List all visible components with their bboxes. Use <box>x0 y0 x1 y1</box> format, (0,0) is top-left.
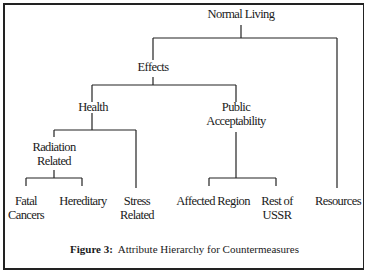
node-radiation-related: Radiation Related <box>32 140 75 168</box>
caption-label: Figure 3: <box>70 243 113 255</box>
node-public-acceptability: Public Acceptability <box>206 100 266 128</box>
node-label-line2: USSR <box>261 208 293 222</box>
node-label: Resources <box>315 194 361 208</box>
node-label: Health <box>78 100 108 114</box>
node-stress-related: Stress Related <box>120 194 154 222</box>
node-effects: Effects <box>138 60 169 74</box>
node-affected-region: Affected Region <box>176 194 250 208</box>
node-hereditary: Hereditary <box>59 194 106 208</box>
node-label-line1: Public <box>206 100 266 114</box>
hierarchy-connectors <box>0 0 369 274</box>
node-label: Affected Region <box>176 194 250 208</box>
node-label-line2: Related <box>120 208 154 222</box>
node-normal-living: Normal Living <box>208 7 275 21</box>
node-label-line1: Fatal <box>8 194 44 208</box>
node-rest-of-ussr: Rest of USSR <box>261 194 293 222</box>
node-health: Health <box>78 100 108 114</box>
figure-caption: Figure 3: Attribute Hierarchy for Counte… <box>0 243 369 255</box>
node-fatal-cancers: Fatal Cancers <box>8 194 44 222</box>
node-label-line1: Rest of <box>261 194 293 208</box>
node-label-line2: Acceptability <box>206 114 266 128</box>
node-label: Normal Living <box>208 7 275 21</box>
node-label-line1: Radiation <box>32 140 75 154</box>
node-label-line2: Related <box>32 154 75 168</box>
node-label: Effects <box>138 60 169 74</box>
node-label: Hereditary <box>59 194 106 208</box>
node-label-line1: Stress <box>120 194 154 208</box>
node-label-line2: Cancers <box>8 208 44 222</box>
node-resources: Resources <box>315 194 361 208</box>
caption-text: Attribute Hierarchy for Countermeasures <box>118 243 299 255</box>
